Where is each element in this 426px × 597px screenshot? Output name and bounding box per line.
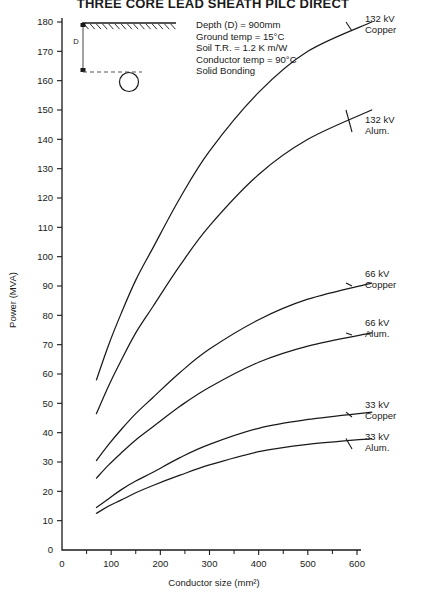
ground-hatch-line — [90, 24, 95, 29]
series-leader-line — [346, 333, 352, 335]
axis-lines — [62, 18, 361, 550]
y-tick-label: 90 — [42, 280, 53, 291]
y-tick-label: 40 — [42, 427, 53, 438]
depth-arrow-bottom — [81, 68, 86, 72]
y-tick-label: 150 — [37, 104, 53, 115]
annotation-note: Solid Bonding — [196, 65, 255, 76]
series-curve — [96, 110, 371, 414]
series-label: 33 kV — [365, 431, 390, 442]
x-tick-label: 0 — [59, 558, 64, 569]
burial-depth-inset: D — [73, 23, 176, 92]
ground-hatch-line — [96, 24, 101, 29]
buried-cable-circle-icon — [120, 73, 139, 92]
y-tick-label: 100 — [37, 251, 53, 262]
x-tick-label: 600 — [349, 558, 365, 569]
x-tick-label: 300 — [202, 558, 218, 569]
ground-hatch-line — [121, 24, 126, 29]
series-curve — [96, 439, 371, 514]
y-tick-label: 180 — [37, 16, 53, 27]
annotation-note: Soil T.R. = 1.2 K m/W — [196, 42, 288, 53]
ground-hatch-line — [103, 24, 108, 29]
annotation-note: Ground temp = 15°C — [196, 31, 284, 42]
x-tick-label: 200 — [152, 558, 168, 569]
series-curve — [96, 412, 371, 507]
annotation-notes-layer: Depth (D) = 900mmGround temp = 15°CSoil … — [196, 19, 297, 76]
ground-hatch-line — [115, 24, 120, 29]
y-tick-label: 20 — [42, 486, 53, 497]
ground-hatch-line — [140, 24, 145, 29]
ground-hatch-line — [158, 24, 163, 29]
y-tick-label: 130 — [37, 163, 53, 174]
ground-hatch-line — [146, 24, 151, 29]
series-label: Alum. — [365, 125, 389, 136]
series-curve — [96, 333, 371, 478]
y-tick-label: 0 — [48, 544, 53, 555]
x-axis-title: Conductor size (mm²) — [168, 577, 259, 588]
ground-hatch-line — [152, 24, 157, 29]
y-tick-label: 10 — [42, 515, 53, 526]
series-label: 132 kV — [365, 114, 395, 125]
series-label: Copper — [365, 279, 396, 290]
chart-container: THREE CORE LEAD SHEATH PILC DIRECT 01020… — [0, 0, 426, 597]
series-label: Copper — [365, 24, 396, 35]
y-tick-label: 60 — [42, 368, 53, 379]
series-leader-line — [346, 22, 352, 31]
series-label: 66 kV — [365, 317, 390, 328]
series-label: Alum. — [365, 328, 389, 339]
series-label: Copper — [365, 410, 396, 421]
ground-hatch-line — [165, 24, 170, 29]
y-tick-label: 70 — [42, 339, 53, 350]
y-tick-label: 160 — [37, 75, 53, 86]
y-axis-title: Power (MVA) — [7, 272, 18, 328]
x-tick-label: 400 — [251, 558, 267, 569]
series-label: Alum. — [365, 442, 389, 453]
series-label: 66 kV — [365, 268, 390, 279]
axes-layer: 0102030405060708090100110120130140150160… — [7, 16, 365, 588]
ground-hatch-line — [171, 24, 176, 29]
y-tick-label: 140 — [37, 134, 53, 145]
y-tick-label: 110 — [38, 222, 53, 233]
y-tick-label: 120 — [37, 192, 53, 203]
curves-layer — [96, 22, 371, 513]
series-label: 132 kV — [365, 13, 395, 24]
ground-hatch-line — [109, 24, 114, 29]
y-tick-label: 30 — [42, 456, 53, 467]
series-curve — [96, 283, 371, 460]
annotation-note: Depth (D) = 900mm — [196, 19, 281, 30]
y-tick-label: 80 — [42, 310, 53, 321]
x-tick-label: 500 — [300, 558, 316, 569]
ground-hatch-line — [134, 24, 139, 29]
y-tick-label: 170 — [37, 46, 53, 57]
annotation-note: Conductor temp = 90°C — [196, 54, 297, 65]
y-tick-label: 50 — [42, 398, 53, 409]
depth-arrow-top — [81, 23, 86, 27]
x-tick-label: 100 — [103, 558, 119, 569]
ground-hatch-line — [127, 24, 132, 29]
chart-plot-area: 0102030405060708090100110120130140150160… — [0, 0, 426, 597]
series-leader-line — [346, 283, 352, 286]
series-label: 33 kV — [365, 399, 390, 410]
depth-label: D — [73, 37, 79, 46]
series-labels-layer: 132 kVCopper132 kVAlum.66 kVCopper66 kVA… — [346, 13, 396, 453]
